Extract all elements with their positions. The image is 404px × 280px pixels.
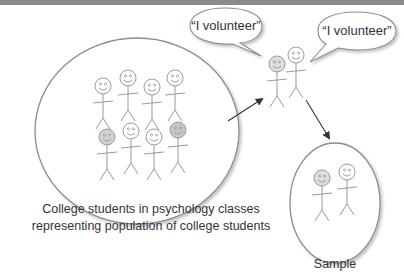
speech-bubble-1: “I volunteer” <box>190 8 262 56</box>
population-group <box>35 38 239 224</box>
population-caption-line1: College students in psychology classes <box>20 201 282 218</box>
bubble-1-text: “I volunteer” <box>191 18 260 33</box>
population-caption-line2: representing population of college stude… <box>20 218 282 235</box>
population-caption: College students in psychology classes r… <box>20 201 282 235</box>
bubble-2-text: “I volunteer” <box>322 23 391 38</box>
sample-label: Sample <box>300 256 370 273</box>
arrow-to-sample <box>306 100 329 138</box>
volunteer-figure-1 <box>267 56 287 107</box>
volunteer-figure-2 <box>286 47 306 98</box>
speech-bubble-2: “I volunteer” <box>310 12 396 62</box>
diagram-canvas: “I volunteer” “I volunteer” <box>0 0 404 280</box>
sample-circle <box>290 143 380 263</box>
sample-group <box>290 143 380 263</box>
